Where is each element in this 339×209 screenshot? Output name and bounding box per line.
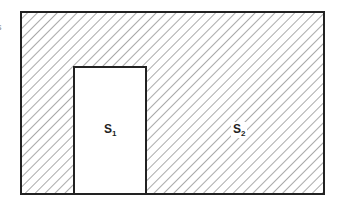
edge-mark: s	[0, 22, 2, 32]
label-s2-main: S	[233, 122, 241, 136]
label-s2: S2	[231, 122, 247, 138]
label-s2-subscript: 2	[241, 129, 245, 138]
label-s1-subscript: 1	[112, 129, 116, 138]
label-s1: S1	[104, 122, 116, 138]
label-s1-main: S	[104, 122, 112, 136]
diagram-canvas	[0, 0, 339, 209]
edge-mark-text: s	[0, 22, 2, 32]
outer-region-s2	[21, 12, 324, 194]
